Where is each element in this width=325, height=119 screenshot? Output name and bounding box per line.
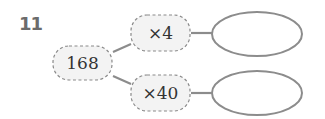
- operation-box-x4: ×4: [131, 15, 190, 51]
- operation-box-x40: ×40: [131, 75, 190, 111]
- multiplication-diagram: 168 ×4 ×40: [0, 0, 325, 119]
- answer-oval-x4[interactable]: [212, 12, 302, 56]
- operation-label-x40: ×40: [143, 83, 179, 103]
- operation-label-x4: ×4: [148, 23, 173, 43]
- connector-168-to-x4: [113, 44, 131, 52]
- connector-168-to-x40: [113, 76, 131, 84]
- answer-oval-x40[interactable]: [212, 71, 302, 115]
- start-value-box: 168: [53, 46, 112, 80]
- start-value: 168: [66, 53, 98, 73]
